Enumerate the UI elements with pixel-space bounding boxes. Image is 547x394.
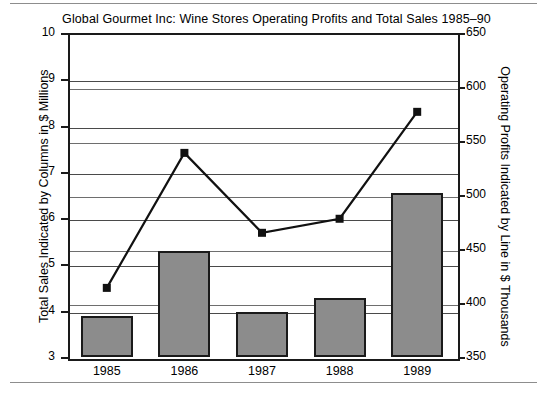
category-label-1989: 1989: [377, 364, 457, 378]
tick-left-8: [61, 126, 68, 128]
tick-left-6: [61, 218, 68, 220]
tick-label-right-400: 400: [466, 296, 486, 308]
tick-right-400: [458, 303, 465, 305]
bottom-divider-rule: [10, 382, 537, 383]
gridline-left-7: [70, 174, 458, 175]
tick-label-left-9: 9: [48, 72, 55, 84]
tick-left-9: [61, 79, 68, 81]
gridline-right-600: [70, 89, 458, 90]
tick-label-right-450: 450: [466, 242, 486, 254]
bar-1987: [236, 312, 288, 357]
tick-left-5: [61, 264, 68, 266]
tick-left-7: [61, 172, 68, 174]
tick-label-right-550: 550: [466, 134, 486, 146]
tick-left-10: [61, 33, 68, 35]
gridline-right-550: [70, 143, 458, 144]
tick-right-350: [458, 357, 465, 359]
left-axis-title: Total Sales Indicated by Columns in $ Mi…: [38, 66, 51, 326]
tick-label-left-6: 6: [48, 211, 55, 223]
bar-1989: [391, 193, 443, 357]
tick-right-500: [458, 195, 465, 197]
category-label-1985: 1985: [67, 364, 147, 378]
tick-right-600: [458, 87, 465, 89]
tick-label-left-3: 3: [48, 350, 55, 362]
tick-right-450: [458, 249, 465, 251]
gridline-left-9: [70, 81, 458, 82]
tick-left-3: [61, 357, 68, 359]
tick-right-650: [458, 33, 465, 35]
bar-1985: [81, 316, 133, 357]
tick-label-left-8: 8: [48, 119, 55, 131]
tick-label-left-4: 4: [48, 304, 55, 316]
bar-1988: [314, 298, 366, 357]
category-label-1987: 1987: [222, 364, 302, 378]
tick-label-left-5: 5: [48, 257, 55, 269]
bar-1986: [158, 251, 210, 357]
tick-label-right-650: 650: [466, 26, 486, 38]
chart-title: Global Gourmet Inc: Wine Stores Operatin…: [0, 12, 547, 26]
tick-left-4: [61, 311, 68, 313]
right-axis-title: Operating Profits Indicated by Line in $…: [499, 66, 512, 326]
tick-label-right-600: 600: [466, 80, 486, 92]
chart-figure: Global Gourmet Inc: Wine Stores Operatin…: [0, 0, 547, 394]
category-label-1986: 1986: [144, 364, 224, 378]
top-divider-rule: [10, 3, 537, 4]
tick-label-left-7: 7: [48, 165, 55, 177]
tick-label-left-10: 10: [42, 26, 55, 38]
category-label-1988: 1988: [300, 364, 380, 378]
gridline-left-8: [70, 128, 458, 129]
tick-label-right-500: 500: [466, 188, 486, 200]
tick-right-550: [458, 141, 465, 143]
tick-label-right-350: 350: [466, 350, 486, 362]
